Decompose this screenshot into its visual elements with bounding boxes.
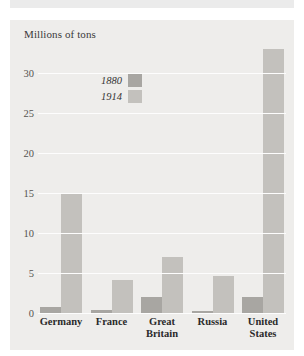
x-axis-label: France [86,316,138,339]
x-axis-label: Germany [35,316,87,339]
y-axis-tick-label: 5 [12,268,34,279]
y-axis-tick-label: 10 [12,228,34,239]
legend-item: 1880 [72,72,142,88]
x-axis-label: Russia [187,316,239,339]
legend-label: 1880 [101,75,122,86]
bar [112,280,133,313]
gridline [38,313,286,314]
x-axis-labels: GermanyFranceGreatBritainRussiaUnitedSta… [38,316,286,339]
x-axis-label: GreatBritain [136,316,188,339]
legend-swatch [128,90,142,103]
gridline [38,233,286,234]
legend-swatch [128,74,142,87]
gridline [38,273,286,274]
bar [213,276,234,313]
y-axis-tick-label: 0 [12,308,34,319]
y-axis-caption: Millions of tons [24,28,96,40]
y-axis-tick-label: 25 [12,108,34,119]
gridline [38,113,286,114]
y-axis-tick-label: 20 [12,148,34,159]
chart-page: Millions of tons 051015202530 GermanyFra… [0,0,304,356]
chart-legend: 18801914 [72,72,142,104]
chart-panel: Millions of tons 051015202530 GermanyFra… [10,20,294,350]
gridline [38,153,286,154]
legend-label: 1914 [101,91,122,102]
page-top-strip [10,0,294,8]
y-axis-tick-column: 051015202530 [10,40,34,313]
bar [61,193,82,313]
bar [242,297,263,313]
legend-item: 1914 [72,88,142,104]
x-axis-label: UnitedStates [237,316,289,339]
y-axis-tick-label: 30 [12,68,34,79]
bar [162,257,183,313]
gridline [38,193,286,194]
bar [141,297,162,313]
y-axis-tick-label: 15 [12,188,34,199]
